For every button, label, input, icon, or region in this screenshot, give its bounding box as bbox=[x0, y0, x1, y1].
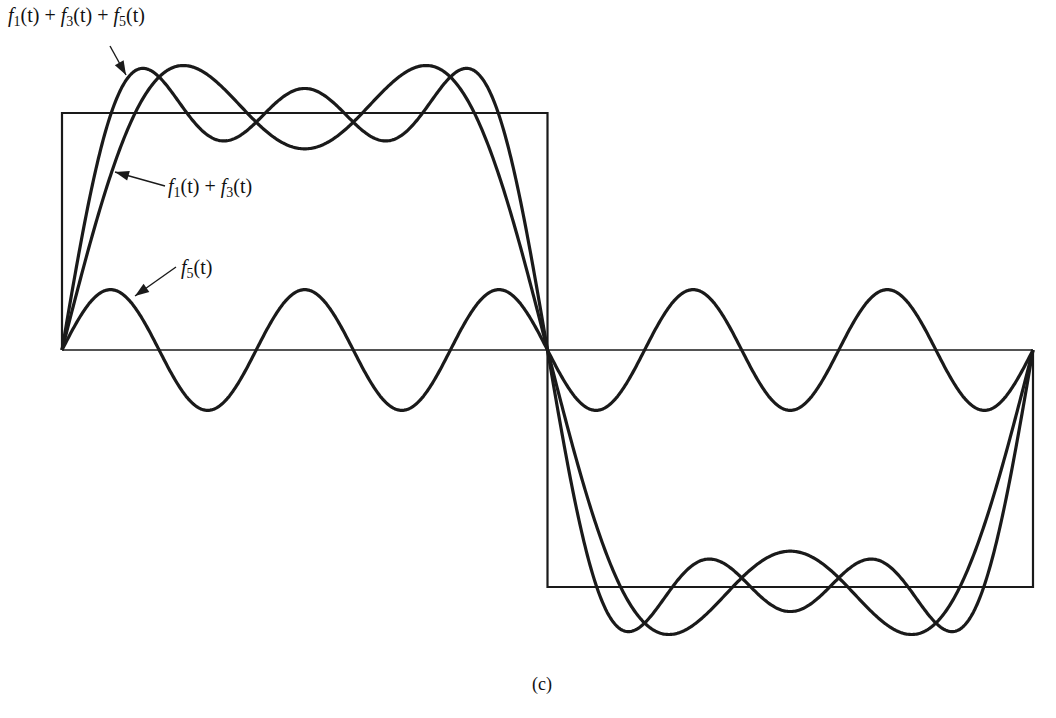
label-f1-f3-f5: f1(t) + f3(t) + f5(t) bbox=[8, 4, 145, 30]
arrow-f5-head bbox=[135, 284, 149, 296]
label-f1-f3: f1(t) + f3(t) bbox=[168, 175, 252, 201]
arrow-f1-f3-f5-head bbox=[115, 60, 126, 75]
label-f5: f5(t) bbox=[181, 256, 212, 282]
arrow-f1-f3-head bbox=[115, 171, 130, 181]
figure-caption: (c) bbox=[532, 674, 552, 695]
fourier-square-wave-plot bbox=[0, 0, 1056, 718]
